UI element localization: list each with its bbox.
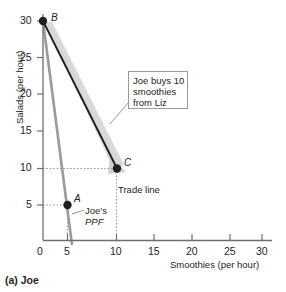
y-tick-label-15: 15 xyxy=(20,124,32,136)
x-tick-label-10: 10 xyxy=(110,245,122,257)
y-tick-label-10: 10 xyxy=(20,161,32,173)
y-tick-label-30: 30 xyxy=(20,14,32,26)
trade-note-line3: from Liz xyxy=(133,97,167,109)
ppf-label-line1: Joe's xyxy=(85,205,107,217)
data-point-b xyxy=(39,17,47,25)
data-point-label-c: C xyxy=(124,157,131,168)
trade-note-box: Joe buys 10 smoothies from Liz xyxy=(128,71,188,109)
x-tick-label-25: 25 xyxy=(224,245,236,257)
ppf-leader-line xyxy=(72,210,84,214)
axes xyxy=(43,14,272,241)
x-tick-label-20: 20 xyxy=(186,245,198,257)
trade-arrow-shadow xyxy=(45,22,126,174)
trade-note-line2: smoothies xyxy=(133,86,176,98)
trade-line-label: Trade line xyxy=(118,184,160,196)
y-axis-title: Salads (per hour) xyxy=(14,51,25,124)
x-tick-label-30: 30 xyxy=(256,245,268,257)
note-leader-line xyxy=(110,103,128,124)
x-axis-ticks xyxy=(68,234,263,240)
series-trade-line xyxy=(43,21,117,169)
x-tick-label-0: 0 xyxy=(37,245,43,257)
x-tick-label-15: 15 xyxy=(148,245,160,257)
data-point-label-a: A xyxy=(74,193,81,204)
x-tick-label-5: 5 xyxy=(64,245,70,257)
figure-joe-ppf-trade-chart: 30 25 20 15 10 5 0 5 10 15 20 25 30 Sala… xyxy=(0,0,286,292)
data-point-label-b: B xyxy=(51,12,58,23)
y-tick-label-5: 5 xyxy=(26,198,32,210)
data-point-a xyxy=(63,201,71,209)
figure-caption: (a) Joe xyxy=(5,274,39,286)
y-axis-ticks xyxy=(37,21,43,205)
data-point-c xyxy=(113,164,121,172)
ppf-label-line2: PPF xyxy=(85,216,103,228)
trade-note-line1: Joe buys 10 xyxy=(133,75,184,87)
x-axis-title: Smoothies (per hour) xyxy=(170,259,259,270)
